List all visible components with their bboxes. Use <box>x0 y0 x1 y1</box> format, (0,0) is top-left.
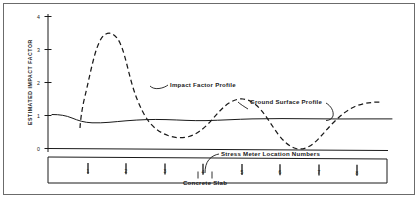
ground-surface-leader-line-left <box>238 102 248 109</box>
y-tick-label-0: 0 <box>37 146 40 152</box>
stress-meter-leader-line <box>205 154 219 173</box>
ground-surface-leader-line-right <box>326 103 333 121</box>
y-axis-title: ESTIMATED IMPACT FACTOR <box>27 39 33 125</box>
y-tick-label-1: 1 <box>37 113 40 119</box>
y-tick-label-4: 4 <box>37 14 40 20</box>
impact-factor-profile-curve <box>80 33 382 149</box>
y-tick-label-3: 3 <box>37 47 40 53</box>
impact-factor-leader-line <box>150 85 168 89</box>
stress-meter-label-7: 7 <box>318 169 321 175</box>
stress-meter-label-8: 8 <box>356 170 359 176</box>
stress-meter-label-5: 5 <box>241 169 244 175</box>
concrete-slab-label: Concrete Slab <box>183 179 227 186</box>
stress-meter-label-4: 4 <box>202 169 205 175</box>
impact-factor-profile-label: Impact Factor Profile <box>170 81 236 88</box>
stress-meter-label-3: 3 <box>164 168 167 174</box>
y-tick-label-2: 2 <box>37 80 40 86</box>
zero-baseline <box>48 149 388 151</box>
stress-meter-label-2: 2 <box>125 168 128 174</box>
ground-surface-profile-label: Ground Surface Profile <box>250 98 323 105</box>
figure-root: 4 3 2 1 0 ESTIMATED IMPACT FACTOR Impact… <box>0 0 419 199</box>
stress-meter-label-6: 6 <box>279 169 282 175</box>
chart-canvas: 4 3 2 1 0 ESTIMATED IMPACT FACTOR Impact… <box>0 0 419 199</box>
stress-meter-location-numbers-label: Stress Meter Location Numbers <box>221 150 320 157</box>
stress-meter-label-1: 1 <box>87 168 90 174</box>
